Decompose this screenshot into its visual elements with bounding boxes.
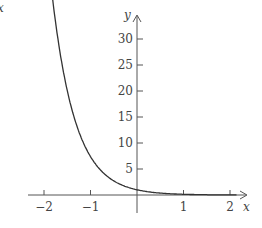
y-tick-label: 20: [118, 84, 133, 98]
x-tick-label: −2: [35, 200, 53, 214]
x-axis-label: x: [243, 200, 250, 214]
y-tick-label: 5: [125, 162, 133, 176]
y-tick-label: 25: [118, 58, 133, 72]
y-axis-label: y: [123, 8, 131, 22]
y-tick-label: 15: [118, 110, 133, 124]
y-ticks: 51015202530: [118, 32, 143, 176]
curve: [52, 0, 236, 195]
x-tick-label: 2: [226, 200, 234, 214]
x-ticks: −2−112: [35, 190, 234, 214]
x-tick-label: −1: [82, 200, 100, 214]
y-tick-label: 30: [118, 32, 133, 46]
x-tick-label: 1: [180, 200, 188, 214]
y-tick-label: 10: [118, 136, 133, 150]
corner-mark: x: [0, 1, 4, 15]
chart: x y x −2−112 51015202530: [0, 0, 262, 228]
